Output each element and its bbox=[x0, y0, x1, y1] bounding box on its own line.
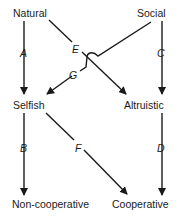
node-cooperative: Cooperative bbox=[112, 198, 169, 210]
edge-label-e: E bbox=[72, 43, 80, 55]
node-noncooperative: Non-cooperative bbox=[12, 198, 89, 210]
edge-e-arrow-upper bbox=[49, 20, 72, 42]
edge-label-f: F bbox=[75, 142, 82, 154]
edge-g-path bbox=[80, 22, 151, 71]
node-selfish: Selfish bbox=[13, 99, 45, 111]
edge-label-a: A bbox=[19, 47, 27, 59]
edge-label-g: G bbox=[69, 69, 77, 81]
edge-e-arrow bbox=[82, 52, 126, 94]
node-natural: Natural bbox=[13, 7, 47, 19]
node-altruistic: Altruistic bbox=[124, 99, 164, 111]
edge-f-arrow bbox=[84, 150, 127, 194]
edge-label-c: C bbox=[157, 47, 165, 59]
causal-diagram: Natural Social Selfish Altruistic Non-co… bbox=[0, 0, 176, 221]
edge-f-arrow-upper bbox=[46, 113, 74, 140]
edge-label-d: D bbox=[157, 142, 165, 154]
edge-label-b: B bbox=[20, 142, 27, 154]
node-social: Social bbox=[137, 7, 166, 19]
